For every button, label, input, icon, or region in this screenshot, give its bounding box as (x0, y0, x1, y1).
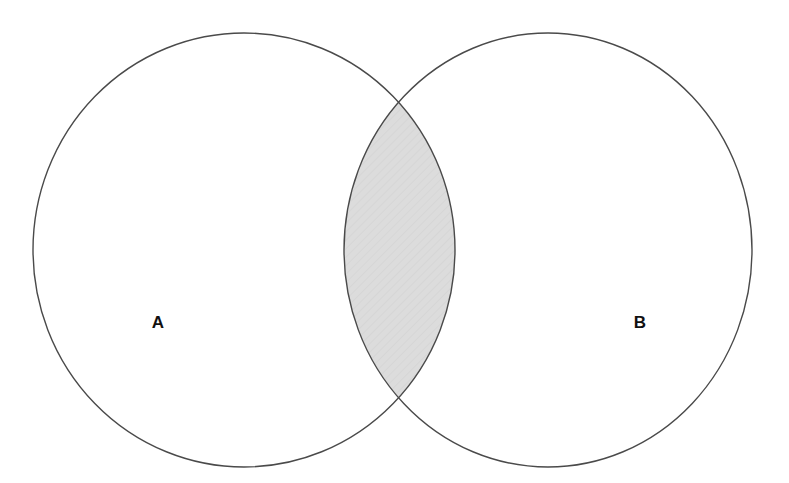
set-b-circle[interactable] (344, 33, 752, 467)
venn-diagram-svg: A B (0, 0, 789, 483)
set-b-label: B (634, 313, 646, 332)
set-a-label: A (152, 313, 164, 332)
venn-diagram-canvas: A B (0, 0, 789, 483)
